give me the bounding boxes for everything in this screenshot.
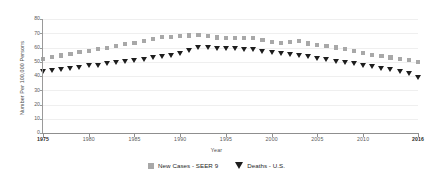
- data-point: [342, 60, 348, 65]
- y-axis-tick-label: 70: [24, 31, 40, 36]
- y-axis-tick-label: 80: [24, 16, 40, 21]
- data-point: [323, 57, 329, 62]
- triangle-down-marker-icon: [235, 162, 243, 169]
- data-point: [131, 58, 137, 63]
- data-point: [168, 53, 174, 58]
- data-point: [76, 65, 82, 70]
- data-point: [205, 45, 211, 50]
- chart-legend: New Cases - SEER 9Deaths - U.S.: [0, 162, 433, 169]
- data-point: [122, 59, 128, 64]
- data-point: [177, 51, 183, 56]
- data-point: [113, 60, 119, 65]
- data-point: [104, 61, 110, 66]
- square-marker-icon: [148, 163, 154, 169]
- y-axis-tick-label: 30: [24, 88, 40, 93]
- x-axis-tick-mark: [418, 134, 419, 137]
- x-axis-tick-mark: [134, 134, 135, 137]
- x-axis-tick-mark: [43, 134, 44, 137]
- x-axis-tick-mark: [363, 134, 364, 137]
- x-axis-tick-label: 2000: [257, 137, 287, 142]
- data-point: [232, 46, 238, 51]
- legend-item[interactable]: New Cases - SEER 9: [148, 162, 218, 169]
- data-point: [314, 56, 320, 61]
- legend-item[interactable]: Deaths - U.S.: [235, 162, 285, 169]
- y-axis-line: [42, 19, 43, 134]
- data-point: [305, 54, 311, 59]
- data-point: [95, 63, 101, 68]
- data-point: [141, 57, 147, 62]
- data-point: [406, 71, 412, 76]
- data-point: [333, 59, 339, 64]
- data-point: [259, 49, 265, 54]
- data-point: [415, 75, 421, 80]
- legend-item-label: Deaths - U.S.: [247, 162, 285, 169]
- x-axis-tick-label: 2016: [403, 137, 433, 142]
- plot-area: [43, 19, 418, 133]
- data-point: [214, 46, 220, 51]
- y-axis-tick-label: 60: [24, 45, 40, 50]
- data-point: [269, 50, 275, 55]
- x-axis-tick-label: 1985: [119, 137, 149, 142]
- x-axis-tick-mark: [317, 134, 318, 137]
- chart-container: Number Per 100,000 Persons 0102030405060…: [0, 0, 433, 189]
- x-axis-title: Year: [0, 147, 433, 153]
- data-point: [296, 53, 302, 58]
- y-axis-tick-label: 50: [24, 59, 40, 64]
- x-axis-tick-label: 1980: [74, 137, 104, 142]
- data-point: [49, 68, 55, 73]
- x-axis-tick-label: 2005: [302, 137, 332, 142]
- data-point: [287, 52, 293, 57]
- y-axis-tick-label: 0: [24, 130, 40, 135]
- y-axis-title-container: Number Per 100,000 Persons: [10, 35, 24, 125]
- data-point: [223, 46, 229, 51]
- x-axis-tick-label: 1990: [165, 137, 195, 142]
- x-axis-tick-mark: [226, 134, 227, 137]
- y-axis-tick-label: 40: [24, 73, 40, 78]
- data-point: [58, 67, 64, 72]
- y-axis-tick-label: 10: [24, 116, 40, 121]
- data-point: [351, 61, 357, 66]
- data-point: [278, 51, 284, 56]
- x-axis-tick-label: 1995: [211, 137, 241, 142]
- data-point: [67, 66, 73, 71]
- data-point: [250, 47, 256, 52]
- data-point: [397, 69, 403, 74]
- data-point: [241, 47, 247, 52]
- x-axis-tick-label: 1975: [28, 137, 58, 142]
- series-deaths: [43, 19, 418, 133]
- data-point: [369, 64, 375, 69]
- x-axis-tick-mark: [272, 134, 273, 137]
- data-point: [159, 54, 165, 59]
- data-point: [195, 45, 201, 50]
- data-point: [86, 63, 92, 68]
- data-point: [360, 63, 366, 68]
- data-point: [186, 48, 192, 53]
- y-axis-tick-label: 20: [24, 102, 40, 107]
- x-axis-tick-label: 2010: [348, 137, 378, 142]
- data-point: [150, 55, 156, 60]
- x-axis-tick-mark: [89, 134, 90, 137]
- x-axis-tick-mark: [180, 134, 181, 137]
- legend-item-label: New Cases - SEER 9: [158, 162, 218, 169]
- data-point: [387, 67, 393, 72]
- data-point: [378, 66, 384, 71]
